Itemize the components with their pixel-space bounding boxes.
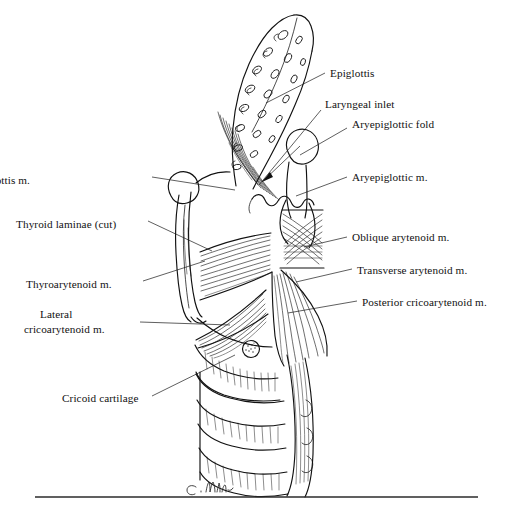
label-laryngeal-inlet: Laryngeal inlet (325, 98, 395, 110)
label-transverse-arytenoid: Transverse arytenoid m. (357, 264, 467, 276)
label-lateral-cricoarytenoid-2: cricoarytenoid m. (24, 323, 105, 335)
label-aryepiglottic-muscle: Aryepiglottic m. (352, 171, 428, 183)
label-aryepiglottic-fold: Aryepiglottic fold (352, 118, 435, 130)
label-epiglottis: Epiglottis (330, 67, 375, 79)
label-oblique-arytenoid: Oblique arytenoid m. (352, 231, 449, 243)
label-thyroarytenoid: Thyroarytenoid m. (26, 278, 112, 290)
label-thyroid-laminae: Thyroid laminae (cut) (16, 218, 116, 231)
label-cricoid-cartilage: Cricoid cartilage (62, 392, 139, 404)
larynx-figure: Thyroepiglottis m. Thyroid laminae (cut)… (0, 0, 511, 516)
label-thyroepiglottis: Thyroepiglottis m. (0, 174, 30, 186)
larynx-illustration: Thyroepiglottis m. Thyroid laminae (cut)… (0, 0, 511, 516)
label-posterior-cricoarytenoid: Posterior cricoarytenoid m. (362, 296, 487, 308)
canvas-background (0, 0, 511, 516)
label-lateral-cricoarytenoid-1: Lateral (40, 308, 72, 320)
